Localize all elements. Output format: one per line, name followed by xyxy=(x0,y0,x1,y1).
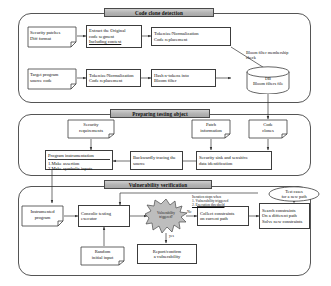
node-security-sink-identification: Security sink and sensitive data identif… xyxy=(196,151,272,170)
node-text-line2: Code replacement xyxy=(89,78,138,83)
label-line2: check xyxy=(246,55,316,60)
node-text-line2: program xyxy=(35,215,51,220)
node-text-header: Program instrumentation xyxy=(48,153,110,160)
node-text-line2: executor xyxy=(81,216,127,221)
node-program-instrumentation: Program instrumentation 1.Make assertion… xyxy=(45,150,113,170)
node-collect-constraints: Collect constraints on current path xyxy=(197,206,249,226)
node-tokenize-normalization-bottom: Tokenize/Normalization Code replacement xyxy=(86,69,141,87)
node-backwardly-tracing-source: Backwardly tracing the source xyxy=(130,151,183,170)
node-text-line2: Bloom filters file xyxy=(253,81,283,86)
node-text-line2: Diff format xyxy=(30,36,74,41)
node-vulnerability-triggered-decision: Vulnerability triggered? xyxy=(145,199,187,233)
banner-label: Preparing testing object xyxy=(132,111,188,117)
node-text-line2: triggered? xyxy=(159,216,173,220)
node-text-line2: Code replacement xyxy=(154,37,228,42)
node-code-clones: Code clones xyxy=(248,119,288,139)
node-text-line2: initial input xyxy=(92,255,113,260)
node-text-item2: 2.Make symbolic inputs xyxy=(48,166,110,171)
node-text-line2: a vulnerability xyxy=(154,254,181,259)
node-report-confirm-vulnerability: Report/confirm a vulnerability xyxy=(137,244,197,264)
edge-label-no: No xyxy=(187,210,191,214)
node-text-line2: clones xyxy=(262,128,274,133)
node-instrumented-program: Instrumented program xyxy=(21,205,64,227)
node-text-line2: on current path xyxy=(200,216,246,221)
label-line3: 2. Execution threshold xyxy=(192,203,268,207)
node-text-line3: Including context xyxy=(89,39,139,44)
node-text-line3: Solve new constraints xyxy=(262,219,307,224)
node-text-line2: requirements xyxy=(79,128,103,133)
banner-label: Code clone detection xyxy=(135,10,183,16)
banner-code-clone-detection: Code clone detection xyxy=(104,8,214,17)
node-text-line2: information xyxy=(200,128,222,133)
node-target-program-source: Target program source code xyxy=(27,68,77,90)
node-patch-information: Patch information xyxy=(191,119,231,139)
node-test-cases-new-path: Test cases for a new path xyxy=(268,186,320,202)
banner-preparing-testing-object: Preparing testing object xyxy=(110,109,210,118)
banner-vulnerability-verification: Vulnerability verification xyxy=(104,180,212,189)
banner-label: Vulnerability verification xyxy=(129,182,187,188)
node-text-line2: Bloom filter xyxy=(154,78,213,83)
node-security-patches: Security patches Diff format xyxy=(27,26,77,48)
node-database-bloom-filters: DB Bloom filters file xyxy=(245,66,291,94)
label-iteration-stops-when: Iteration stops when 1. Vulnerability tr… xyxy=(192,195,268,208)
node-extract-code-segment: Extract the Original code segment Includ… xyxy=(86,25,142,48)
node-security-requirements: Security requirements xyxy=(67,119,115,139)
node-text-line2: for a new path xyxy=(281,194,306,199)
node-random-initial-input: Random initial input xyxy=(80,246,125,266)
node-text-line2: data identification xyxy=(199,161,269,166)
figure-canvas: Code clone detection Security patches Di… xyxy=(0,0,331,286)
node-tokenize-normalization-top: Tokenize/Normalization Code replacement xyxy=(151,27,231,46)
node-hash-n-tokens: Hash n-tokens into Bloom filter xyxy=(151,69,216,87)
edge-label-yes: yes xyxy=(169,234,174,238)
node-text-line2: source code xyxy=(30,78,74,83)
node-text-line2: source xyxy=(133,161,180,166)
node-concolic-testing-executor: Concolic testing executor xyxy=(78,205,130,227)
label-bloom-filter-membership-check: Bloom filter membership check xyxy=(246,50,316,60)
